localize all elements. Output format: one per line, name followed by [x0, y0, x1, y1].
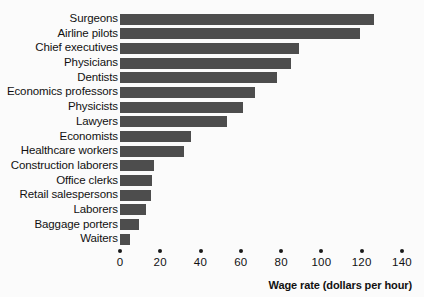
category-label: Laborers: [73, 203, 118, 218]
bar-row: Physicists: [0, 100, 424, 115]
bar: [120, 190, 151, 201]
bar: [120, 146, 184, 157]
bar: [120, 175, 152, 186]
x-tick: 80: [261, 249, 301, 268]
tick-dot-icon: [199, 249, 203, 253]
category-label: Physicians: [64, 56, 118, 71]
bar-row: Dentists: [0, 71, 424, 86]
bar: [120, 58, 291, 69]
bar-row: Surgeons: [0, 12, 424, 27]
x-tick-label: 120: [342, 256, 382, 268]
bar-row: Baggage porters: [0, 218, 424, 233]
category-label: Office clerks: [56, 174, 118, 189]
plot-area: Surgeons Airline pilots Chief executives…: [0, 12, 424, 247]
x-tick-label: 80: [261, 256, 301, 268]
bar: [120, 116, 227, 127]
bar: [120, 102, 243, 113]
wage-rate-bar-chart: Surgeons Airline pilots Chief executives…: [0, 0, 424, 297]
tick-dot-icon: [279, 249, 283, 253]
bar: [120, 28, 360, 39]
tick-dot-icon: [360, 249, 364, 253]
x-tick-label: 100: [301, 256, 341, 268]
bar: [120, 14, 374, 25]
x-tick-label: 140: [382, 256, 422, 268]
tick-dot-icon: [319, 249, 323, 253]
category-label: Chief executives: [35, 41, 118, 56]
x-tick-label: 20: [140, 256, 180, 268]
bar: [120, 43, 299, 54]
tick-dot-icon: [118, 249, 122, 253]
bar: [120, 160, 154, 171]
x-tick: 0: [100, 249, 140, 268]
category-label: Economics professors: [7, 85, 118, 100]
bar-row: Healthcare workers: [0, 144, 424, 159]
bar-row: Airline pilots: [0, 27, 424, 42]
tick-dot-icon: [400, 249, 404, 253]
x-tick-label: 60: [221, 256, 261, 268]
bar: [120, 87, 255, 98]
tick-dot-icon: [158, 249, 162, 253]
bar-row: Economists: [0, 130, 424, 145]
category-label: Retail salespersons: [20, 188, 118, 203]
bar-row: Construction laborers: [0, 159, 424, 174]
category-label: Physicists: [68, 100, 118, 115]
bar-row: Chief executives: [0, 41, 424, 56]
x-tick: 40: [181, 249, 221, 268]
x-axis-title: Wage rate (dollars per hour): [0, 279, 412, 291]
category-label: Surgeons: [70, 12, 118, 27]
x-tick: 120: [342, 249, 382, 268]
x-tick: 60: [221, 249, 261, 268]
category-label: Lawyers: [76, 115, 118, 130]
x-tick: 20: [140, 249, 180, 268]
bar: [120, 72, 277, 83]
category-label: Construction laborers: [11, 159, 118, 174]
category-label: Airline pilots: [57, 27, 118, 42]
bar-row: Retail salespersons: [0, 188, 424, 203]
bar-row: Lawyers: [0, 115, 424, 130]
category-label: Dentists: [77, 71, 118, 86]
x-tick-label: 0: [100, 256, 140, 268]
category-label: Economists: [60, 130, 118, 145]
bar-row: Physicians: [0, 56, 424, 71]
bar: [120, 234, 130, 245]
bar-row: Economics professors: [0, 85, 424, 100]
tick-dot-icon: [239, 249, 243, 253]
category-label: Healthcare workers: [21, 144, 118, 159]
bar: [120, 219, 139, 230]
bar: [120, 204, 146, 215]
category-label: Baggage porters: [34, 218, 118, 233]
x-tick: 140: [382, 249, 422, 268]
x-axis: 0 20 40 60 80 100 120 140 Wag: [0, 249, 424, 297]
bar-row: Waiters: [0, 232, 424, 247]
category-label: Waiters: [80, 232, 118, 247]
bar-row: Laborers: [0, 203, 424, 218]
x-tick-label: 40: [181, 256, 221, 268]
x-tick: 100: [301, 249, 341, 268]
bar-row: Office clerks: [0, 174, 424, 189]
bar: [120, 131, 191, 142]
